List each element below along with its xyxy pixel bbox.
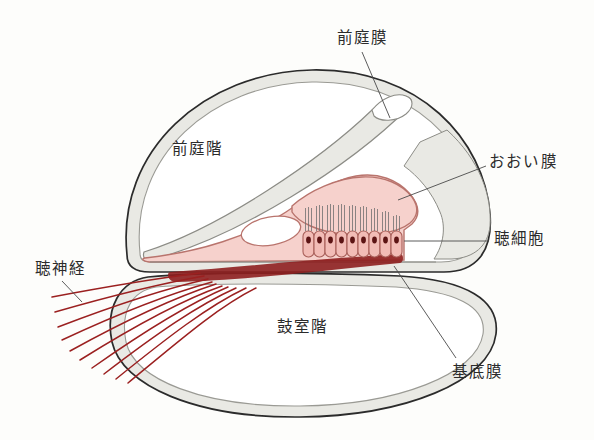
label-vestibular-membrane: 前庭膜	[337, 31, 389, 47]
label-tectorial-membrane: おおい膜	[489, 155, 558, 171]
cochlea-cross-section-figure	[0, 0, 594, 440]
label-scala-tympani: 鼓室階	[277, 320, 329, 336]
label-auditory-nerve: 聴神経	[35, 262, 87, 278]
cochlea-diagram-page: 前庭膜 おおい膜 聴細胞 基底膜 聴神経 前庭階 鼓室階	[0, 0, 594, 440]
label-basilar-membrane: 基底膜	[452, 365, 504, 381]
label-scala-vestibuli: 前庭階	[172, 142, 224, 158]
scala-tympani-chamber	[110, 273, 496, 417]
label-hair-cells: 聴細胞	[494, 232, 546, 248]
